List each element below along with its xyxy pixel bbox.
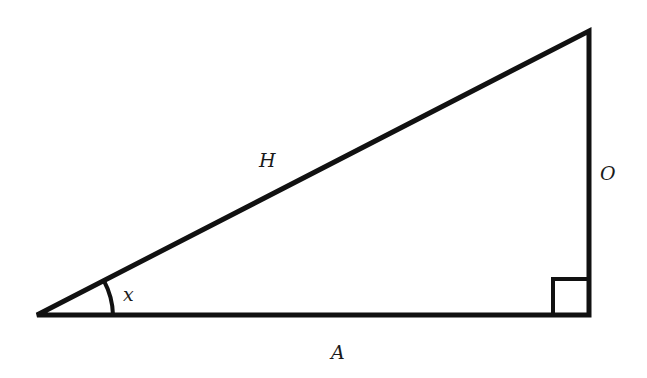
hypotenuse-label: H xyxy=(258,149,276,171)
angle-label: x xyxy=(123,283,134,305)
angle-arc xyxy=(104,281,113,315)
adjacent-label: A xyxy=(329,341,345,363)
opposite-label: O xyxy=(600,162,616,184)
triangle-outline xyxy=(37,31,589,315)
right-angle-marker xyxy=(553,279,589,315)
right-triangle-diagram: H O A x xyxy=(0,0,647,378)
